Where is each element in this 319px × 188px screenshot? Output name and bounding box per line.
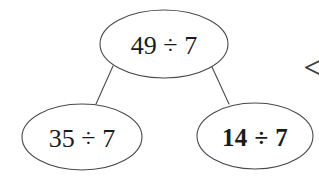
node-left-child[interactable]: 35 ÷ 7 — [22, 104, 142, 170]
factor-tree-canvas: 49 ÷ 7 35 ÷ 7 14 ÷ 7 < — [0, 0, 319, 188]
node-root[interactable]: 49 ÷ 7 — [100, 10, 228, 78]
node-left-child-label: 35 ÷ 7 — [49, 124, 115, 153]
node-root-label: 49 ÷ 7 — [131, 31, 197, 60]
factor-tree-diagram: 49 ÷ 7 35 ÷ 7 14 ÷ 7 < — [0, 0, 319, 188]
less-than-symbol: < — [303, 45, 319, 90]
connector-root-to-left-child — [96, 66, 113, 104]
connector-root-to-right-child — [212, 67, 229, 104]
node-right-child-label: 14 ÷ 7 — [222, 124, 288, 151]
node-right-child[interactable]: 14 ÷ 7 — [197, 103, 313, 169]
